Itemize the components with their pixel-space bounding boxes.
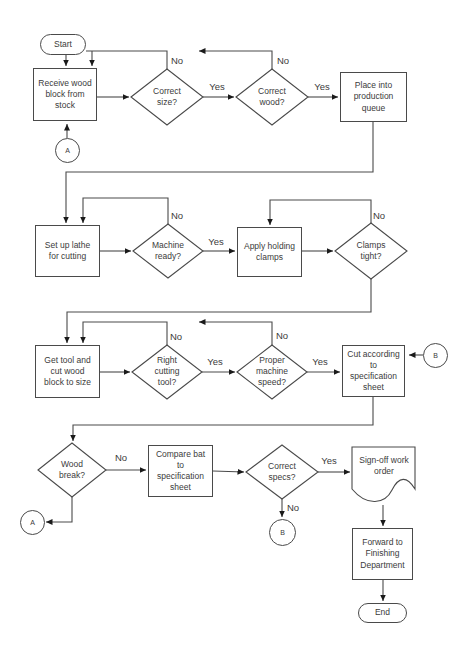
- edge-label-proper-speed-yes: Yes: [312, 356, 328, 367]
- edge-tight-to-gettool: [67, 279, 371, 343]
- process-compare-bat-label: Compare bat to specification sheet: [153, 449, 209, 493]
- edge-label-right-tool-no: No: [170, 331, 182, 342]
- edge-machine-no-loop: [83, 198, 168, 224]
- edge-label-proper-speed-no: No: [276, 330, 288, 341]
- end-terminator: End: [358, 603, 407, 623]
- process-get-tool-label: Get tool and cut wood block to size: [42, 355, 94, 388]
- edge-label-correct-size-yes: Yes: [209, 81, 225, 92]
- decision-clamps-tight-label: Clamps tight?: [351, 240, 391, 262]
- process-cut-spec-label: Cut according to specification sheet: [346, 349, 402, 393]
- process-place-queue: Place into production queue: [340, 72, 407, 122]
- decision-wood-break-label: Wood break?: [54, 459, 90, 481]
- process-get-tool: Get tool and cut wood block to size: [35, 345, 100, 398]
- decision-correct-wood-label: Correct wood?: [252, 86, 292, 108]
- connector-a-bottom-label: A: [30, 518, 35, 527]
- edge-label-correct-specs-yes: Yes: [321, 455, 337, 466]
- connector-a-bottom: A: [20, 510, 45, 535]
- process-receive-wood-label: Receive wood block from stock: [37, 78, 93, 111]
- process-setup-lathe-label: Set up lathe for cutting: [41, 240, 95, 262]
- process-receive-wood: Receive wood block from stock: [33, 68, 97, 121]
- decision-correct-size-label: Correct size?: [147, 86, 187, 108]
- decision-proper-speed-label: Proper machine speed?: [250, 355, 294, 388]
- edge-label-correct-wood-no: No: [277, 55, 289, 66]
- process-forward-finishing: Forward to Finishing Department: [352, 528, 413, 580]
- edge-tool-no-loop: [83, 322, 167, 345]
- process-cut-spec: Cut according to specification sheet: [342, 345, 405, 397]
- edge-compare-to-specs: [213, 471, 244, 472]
- edge-label-correct-size-no: No: [171, 55, 183, 66]
- process-compare-bat: Compare bat to specification sheet: [148, 445, 213, 497]
- edge-cut-to-break: [73, 397, 373, 441]
- edge-label-correct-wood-yes: Yes: [314, 81, 330, 92]
- connector-b-right: B: [423, 343, 448, 368]
- start-terminator: Start: [40, 34, 86, 55]
- decision-right-tool-label: Right cutting tool?: [147, 355, 187, 388]
- decision-correct-specs-label: Correct specs?: [262, 461, 302, 483]
- edge-break-to-connector-a: [46, 497, 72, 522]
- process-apply-clamps: Apply holding clamps: [237, 227, 302, 277]
- process-place-queue-label: Place into production queue: [349, 80, 399, 113]
- edge-label-correct-specs-no: No: [287, 502, 299, 513]
- edge-label-machine-ready-no: No: [171, 210, 183, 221]
- connector-a-top: A: [55, 138, 80, 163]
- connector-b-right-label: B: [433, 351, 438, 360]
- process-forward-finishing-label: Forward to Finishing Department: [356, 537, 410, 570]
- edge-label-right-tool-yes: Yes: [207, 356, 223, 367]
- edge-label-wood-break-no: No: [115, 452, 127, 463]
- edge-label-clamps-tight-no: No: [373, 210, 385, 221]
- process-setup-lathe: Set up lathe for cutting: [35, 225, 100, 277]
- decision-machine-ready-label: Machine ready?: [146, 240, 190, 262]
- edge-label-machine-ready-yes: Yes: [208, 236, 224, 247]
- flowchart-canvas: Start End Receive wood block from stock …: [0, 0, 473, 663]
- process-apply-clamps-label: Apply holding clamps: [242, 241, 298, 263]
- connector-a-top-label: A: [65, 146, 70, 155]
- edge-size-no-return: [86, 51, 167, 69]
- connector-b-bottom-label: B: [280, 528, 285, 537]
- end-label: End: [375, 607, 390, 618]
- edge-speed-no-return: [199, 322, 272, 345]
- document-signoff-label: Sign-off work order: [355, 455, 413, 477]
- edge-tight-no-loop: [270, 200, 371, 225]
- edge-wood-no-return: [199, 51, 272, 69]
- start-label: Start: [54, 39, 72, 50]
- connector-b-bottom: B: [269, 519, 296, 546]
- edge-queue-to-lathe: [66, 122, 373, 223]
